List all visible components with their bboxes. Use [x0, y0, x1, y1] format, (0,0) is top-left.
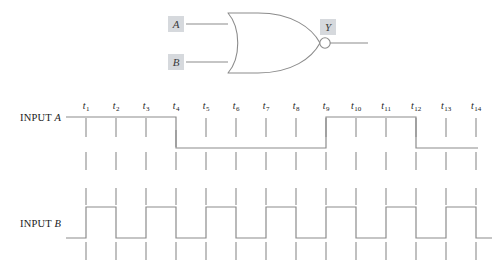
tick-label-t1: t1: [83, 100, 89, 111]
figure-canvas: [0, 0, 500, 266]
waveform-input-b-label: INPUT B: [20, 218, 61, 229]
timing-diagram: [66, 117, 492, 260]
gate-input-a-label: A: [168, 16, 184, 32]
tick-label-t11: t11: [381, 100, 391, 111]
tick-label-t8: t8: [293, 100, 299, 111]
figure-root: A B Y t1 t2 t3 t4 t5 t6 t7 t8 t9 t10 t11…: [0, 0, 500, 266]
or-gate-body: [228, 13, 320, 73]
tick-label-t5: t5: [203, 100, 209, 111]
inversion-bubble-icon: [320, 38, 330, 48]
waveform-b-lower-ticks: [86, 242, 476, 260]
tick-label-t4: t4: [173, 100, 179, 111]
gate-output-y-label: Y: [320, 19, 336, 35]
tick-label-t7: t7: [263, 100, 269, 111]
tick-label-t2: t2: [113, 100, 119, 111]
waveform-a-lower-ticks: [86, 152, 476, 170]
waveform-a-tick-grid: [86, 118, 476, 147]
tick-label-t13: t13: [441, 100, 451, 111]
tick-label-t10: t10: [351, 100, 361, 111]
waveform-b-upper-ticks: [86, 188, 476, 205]
waveform-input-a-label: INPUT A: [20, 112, 61, 123]
waveform-input-b-trace: [66, 207, 492, 238]
tick-label-t14: t14: [471, 100, 481, 111]
tick-label-t3: t3: [143, 100, 149, 111]
gate-input-b-label: B: [168, 54, 184, 70]
tick-label-t6: t6: [233, 100, 239, 111]
tick-label-t12: t12: [411, 100, 421, 111]
tick-label-t9: t9: [323, 100, 329, 111]
